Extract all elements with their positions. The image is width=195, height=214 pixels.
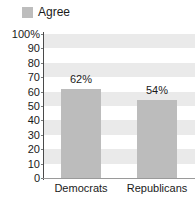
y-axis-tick-label: 10 — [0, 159, 40, 170]
background-band — [44, 34, 195, 48]
y-axis-tick-label: 20 — [0, 144, 40, 155]
bar-chart: Agree 100%9080706050403020100 62%54% Dem… — [0, 0, 195, 214]
bar-value-label: 62% — [51, 74, 111, 85]
bar-value-label: 54% — [127, 85, 187, 96]
y-axis-tick-label: 30 — [0, 130, 40, 141]
y-axis-tick-label: 90 — [0, 43, 40, 54]
legend-item-label: Agree — [38, 6, 70, 18]
y-axis-tick-label: 100% — [0, 29, 40, 40]
y-axis-tick-label: 40 — [0, 115, 40, 126]
y-axis-tick-label: 70 — [0, 72, 40, 83]
legend-swatch-icon — [22, 7, 33, 18]
x-axis-category-label: Democrats — [43, 182, 119, 194]
y-axis-line — [43, 32, 44, 180]
x-axis-category-label: Republicans — [119, 182, 195, 194]
chart-legend: Agree — [22, 3, 70, 21]
y-axis-tick-label: 0 — [0, 173, 40, 184]
bar-republicans — [137, 100, 177, 178]
plot-area: 62%54% — [43, 34, 195, 178]
y-axis-tick-label: 80 — [0, 58, 40, 69]
x-axis-labels: DemocratsRepublicans — [43, 182, 195, 198]
y-axis-tick-label: 60 — [0, 87, 40, 98]
bar-democrats — [61, 89, 101, 178]
x-axis-line — [43, 178, 195, 179]
y-axis-labels: 100%9080706050403020100 — [0, 34, 40, 178]
y-axis-tick-label: 50 — [0, 101, 40, 112]
